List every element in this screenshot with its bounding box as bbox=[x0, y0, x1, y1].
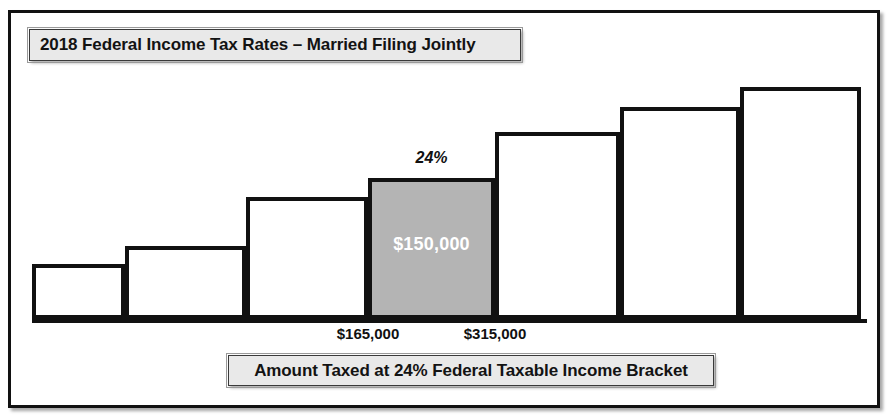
tick-label-315000: $315,000 bbox=[435, 325, 555, 342]
bar-bracket-2 bbox=[125, 246, 246, 319]
bar-bracket-5 bbox=[495, 132, 620, 319]
chart-caption-text: Amount Taxed at 24% Federal Taxable Inco… bbox=[254, 361, 688, 381]
tax-bracket-figure: 2018 Federal Income Tax Rates – Married … bbox=[0, 0, 891, 420]
bar-bracket-7 bbox=[740, 87, 861, 319]
x-axis-baseline bbox=[32, 319, 867, 323]
tick-label-165000: $165,000 bbox=[308, 325, 428, 342]
rate-annotation-24-percent: 24% bbox=[368, 149, 495, 167]
bar-bracket-1 bbox=[32, 264, 125, 319]
bar-chart-plot-area: $150,000 24% $165,000 $315,000 bbox=[11, 13, 883, 411]
bar-bracket-6 bbox=[620, 107, 740, 319]
bar-value-label: $150,000 bbox=[372, 234, 491, 255]
bar-bracket-24-percent-highlighted: $150,000 bbox=[368, 178, 495, 319]
bar-bracket-3 bbox=[246, 197, 368, 319]
figure-frame: 2018 Federal Income Tax Rates – Married … bbox=[8, 10, 880, 408]
chart-caption-box: Amount Taxed at 24% Federal Taxable Inco… bbox=[228, 355, 714, 386]
